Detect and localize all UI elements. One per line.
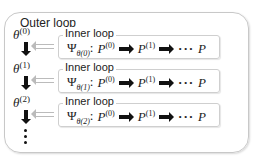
inner-loop-box-1: Inner loop Ψθ(1): P(0) P(1) ··· P [58,69,220,93]
theta-0: θ(0) [13,26,30,43]
right-arrow-icon [159,81,169,85]
hollow-left-arrow-icon [36,78,54,83]
right-arrow-icon [119,115,129,119]
inner-loop-label: Inner loop [63,95,116,107]
down-arrow-icon [24,76,28,85]
inner-loop-box-0: Inner loop Ψθ(0): P(0) P(1) ··· P [58,35,220,59]
right-arrow-icon [159,47,169,51]
theta-2: θ(2) [13,94,30,111]
inner-loop-formula: Ψθ(2): P(0) P(1) ··· P [67,108,206,126]
vertical-ellipsis-dot [24,129,27,132]
inner-loop-label: Inner loop [63,27,116,39]
theta-1: θ(1) [13,60,30,77]
inner-loop-box-2: Inner loop Ψθ(2): P(0) P(1) ··· P [58,103,220,127]
vertical-ellipsis-dot [24,141,27,144]
right-arrow-icon [159,115,169,119]
inner-loop-label: Inner loop [63,61,116,73]
right-arrow-icon [119,47,129,51]
inner-loop-formula: Ψθ(1): P(0) P(1) ··· P [67,74,206,92]
inner-loop-formula: Ψθ(0): P(0) P(1) ··· P [67,40,206,58]
hollow-left-arrow-icon [36,44,54,49]
vertical-ellipsis-dot [24,135,27,138]
hollow-left-arrow-icon [36,112,54,117]
down-arrow-icon [24,42,28,51]
down-arrow-icon [24,110,28,119]
right-arrow-icon [119,81,129,85]
